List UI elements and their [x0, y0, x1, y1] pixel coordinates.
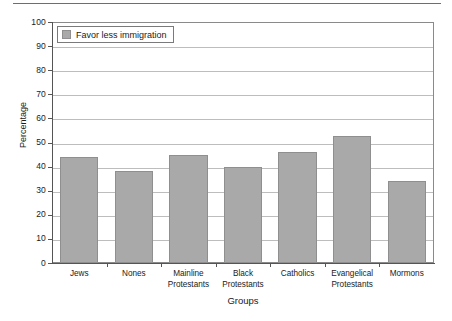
bar: [60, 157, 98, 263]
y-tick-label: 80: [10, 65, 46, 75]
y-tick-label: 30: [10, 185, 46, 195]
x-category-label-line: Mormons: [373, 268, 440, 279]
y-tick-label: 60: [10, 113, 46, 123]
x-category-label-line: Protestants: [210, 279, 277, 290]
legend-label: Favor less immigration: [76, 30, 167, 40]
y-tick-label: 70: [10, 89, 46, 99]
bar: [224, 167, 262, 263]
y-tick-label: 10: [10, 233, 46, 243]
bar-chart-figure: 0102030405060708090100 JewsNonesMainline…: [0, 0, 452, 321]
y-tick-label: 40: [10, 161, 46, 171]
top-horizontal-rule: [13, 3, 441, 4]
gridline: [53, 71, 433, 72]
x-category-label: Mormons: [373, 268, 440, 279]
gridline: [53, 119, 433, 120]
bar: [169, 155, 207, 263]
y-axis-line: [52, 22, 53, 264]
y-tick-label: 90: [10, 41, 46, 51]
gridline: [53, 47, 433, 48]
gridline: [53, 144, 433, 145]
y-tick-label: 50: [10, 137, 46, 147]
y-tick-label: 20: [10, 209, 46, 219]
y-tick-label: 0: [10, 258, 46, 268]
legend-swatch-icon: [62, 30, 71, 39]
x-axis-line: [52, 263, 435, 264]
bar: [388, 181, 426, 263]
x-axis-title: Groups: [52, 295, 434, 306]
bar: [115, 171, 153, 263]
y-tick-label: 100: [10, 17, 46, 27]
chart-legend: Favor less immigration: [57, 26, 174, 43]
bar: [333, 136, 371, 263]
y-axis-title: Percentage: [18, 80, 28, 170]
bar: [278, 152, 316, 263]
x-category-label-line: Protestants: [319, 279, 386, 290]
gridline: [53, 95, 433, 96]
